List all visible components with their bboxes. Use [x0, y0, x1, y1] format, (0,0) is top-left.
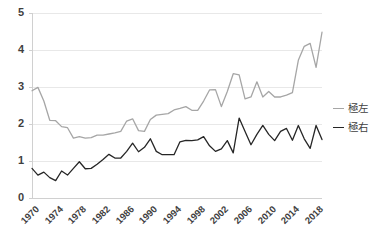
axis-lines [29, 13, 32, 198]
y-tick-label: 3 [4, 81, 24, 92]
legend-label: 極右 [348, 122, 368, 133]
legend-line-swatch [333, 127, 344, 128]
y-tick-label: 5 [4, 7, 24, 18]
legend-label: 極左 [348, 103, 368, 114]
y-tick-label: 2 [4, 118, 24, 129]
series-line-1 [32, 32, 322, 138]
y-tick-label: 0 [4, 192, 24, 203]
series-lines [32, 32, 322, 180]
y-tick-label: 1 [4, 155, 24, 166]
gridlines [32, 13, 322, 198]
y-tick-label: 4 [4, 44, 24, 55]
legend-item-1[interactable]: 極左 [333, 103, 368, 114]
line-chart: 012345 197019741978198219861990199419982… [0, 0, 375, 243]
legend-line-swatch [333, 108, 344, 109]
series-line-2 [32, 118, 322, 181]
legend-item-2[interactable]: 極右 [333, 122, 368, 133]
